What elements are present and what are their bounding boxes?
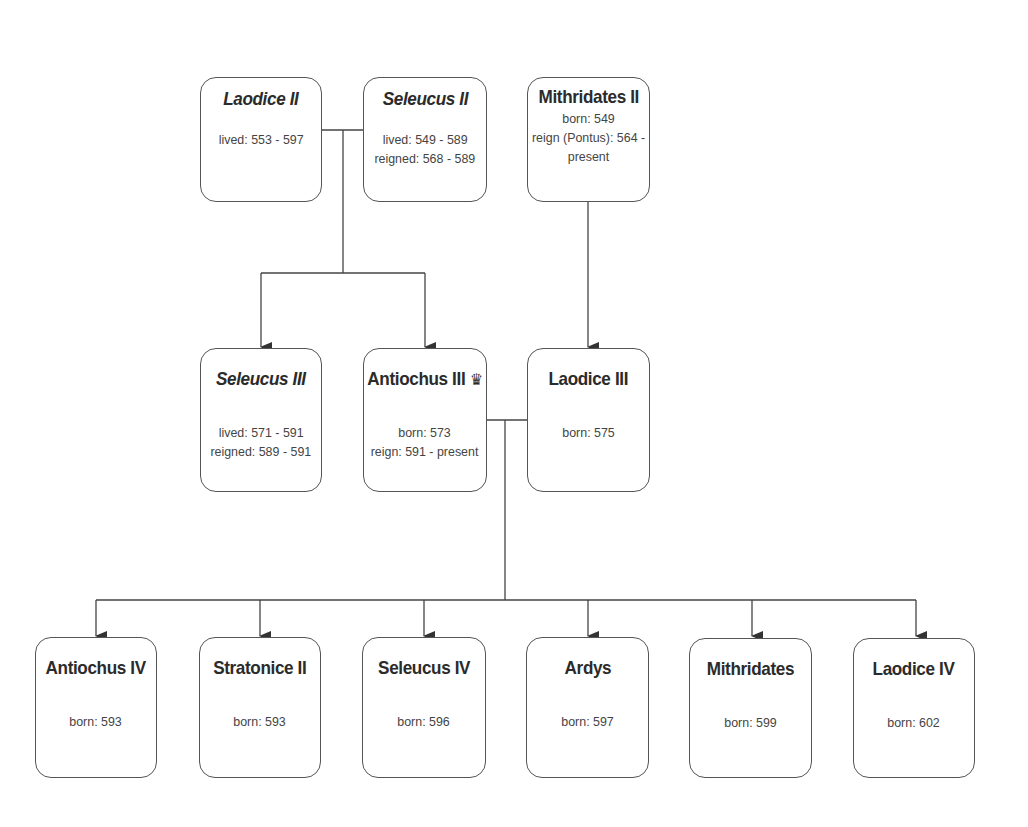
born-date: born: 597 — [561, 712, 613, 731]
person-name: Mithridates — [707, 658, 794, 680]
born-date: born: 596 — [398, 712, 450, 731]
crown-icon: ♛ — [470, 371, 482, 388]
lived-dates: lived: 553 - 597 — [219, 130, 304, 149]
reigned-dates: reigned: 589 - 591 — [211, 442, 312, 461]
born-date: born: 593 — [234, 712, 286, 731]
person-name-text: Antiochus III — [368, 368, 466, 389]
person-node-laodice-ii[interactable]: Laodice II lived: 553 - 597 — [200, 77, 322, 202]
person-node-seleucus-iii[interactable]: Seleucus III lived: 571 - 591 reigned: 5… — [200, 348, 322, 492]
person-node-antiochus-iv[interactable]: Antiochus IV born: 593 — [35, 637, 157, 778]
person-name: Laodice II — [223, 88, 298, 110]
person-name: Seleucus II — [382, 88, 467, 110]
person-node-mithridates-ii[interactable]: Mithridates II born: 549 reign (Pontus):… — [527, 77, 650, 202]
person-name: Antiochus III ♛ — [368, 368, 483, 390]
person-node-seleucus-ii[interactable]: Seleucus II lived: 549 - 589 reigned: 56… — [363, 77, 487, 202]
person-node-ardys[interactable]: Ardys born: 597 — [526, 637, 649, 778]
person-name: Antiochus IV — [46, 657, 146, 679]
born-date: born: 575 — [562, 423, 614, 442]
lived-dates: lived: 571 - 591 — [219, 423, 304, 442]
reign-dates: reign (Pontus): 564 - — [532, 128, 645, 147]
person-node-stratonice-ii[interactable]: Stratonice II born: 593 — [199, 637, 321, 778]
born-date: born: 549 — [562, 109, 614, 128]
reign-dates: reign: 591 - present — [371, 442, 479, 461]
person-node-antiochus-iii[interactable]: Antiochus III ♛ born: 573 reign: 591 - p… — [363, 348, 487, 492]
reign-dates-cont: present — [568, 147, 609, 166]
born-date: born: 602 — [888, 713, 940, 732]
reigned-dates: reigned: 568 - 589 — [375, 149, 476, 168]
person-name: Stratonice II — [213, 657, 306, 679]
born-date: born: 599 — [724, 713, 776, 732]
person-node-mithridates[interactable]: Mithridates born: 599 — [689, 638, 812, 778]
person-name: Mithridates II — [538, 86, 638, 108]
born-date: born: 573 — [399, 423, 451, 442]
person-name: Ardys — [564, 657, 611, 679]
person-node-laodice-iv[interactable]: Laodice IV born: 602 — [853, 638, 975, 778]
person-name: Laodice IV — [873, 658, 955, 680]
person-name: Seleucus IV — [378, 657, 470, 679]
person-name: Seleucus III — [216, 368, 306, 390]
lived-dates: lived: 549 - 589 — [383, 130, 468, 149]
born-date: born: 593 — [70, 712, 122, 731]
person-name: Laodice III — [549, 368, 629, 390]
person-node-seleucus-iv[interactable]: Seleucus IV born: 596 — [362, 637, 486, 778]
person-node-laodice-iii[interactable]: Laodice III born: 575 — [527, 348, 650, 492]
